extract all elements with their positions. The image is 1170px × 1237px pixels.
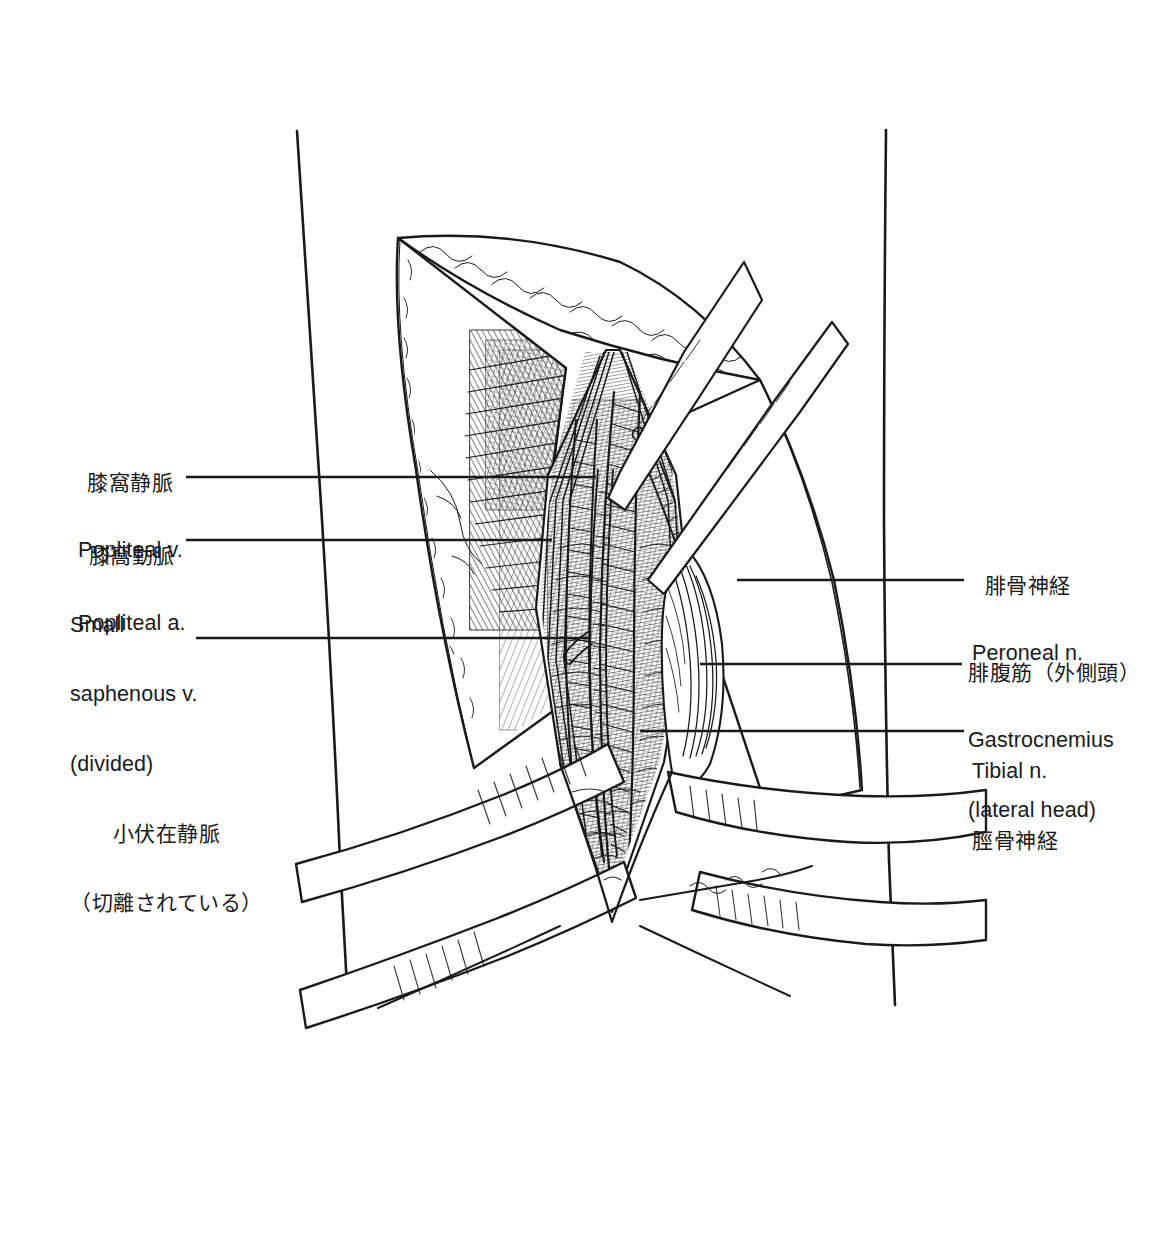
label-small-saphenous-ja-2: （切離されている） xyxy=(70,889,263,916)
figure-page: 膝窩静脈 Popliteal v. 膝窩動脈 Popliteal a. Smal… xyxy=(0,0,1170,1237)
label-popliteal-vein-ja: 膝窩静脈 xyxy=(78,469,183,496)
label-small-saphenous-en-1: Small xyxy=(70,612,263,640)
label-small-saphenous-vein: Small saphenous v. (divided) 小伏在静脈 （切離され… xyxy=(70,570,263,958)
label-small-saphenous-ja-1: 小伏在静脈 xyxy=(70,820,263,847)
label-small-saphenous-en-2: saphenous v. xyxy=(70,681,263,709)
label-tibial-nerve-en: Tibial n. xyxy=(972,758,1058,786)
label-tibial-nerve-ja: 脛骨神経 xyxy=(972,827,1058,854)
label-tibial-nerve: Tibial n. 脛骨神経 xyxy=(972,716,1058,896)
label-peroneal-nerve-ja: 腓骨神経 xyxy=(972,572,1083,599)
retractor-band-lower-left xyxy=(296,742,624,902)
label-popliteal-artery-ja: 膝窩動脈 xyxy=(78,542,186,569)
label-small-saphenous-en-3: (divided) xyxy=(70,751,263,779)
label-gastrocnemius-ja: 腓腹筋（外側頭） xyxy=(968,659,1140,686)
